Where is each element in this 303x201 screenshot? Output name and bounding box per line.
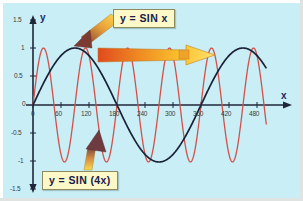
figure-border-bottom [0, 198, 303, 201]
x-tick-label: 360 [193, 110, 203, 117]
x-axis-label: x [281, 90, 287, 101]
y-tick-label: -1.5 [10, 185, 20, 192]
callout-sin-4x: y = SIN (4x) [42, 171, 118, 190]
callout-sin-x: y = SIN x [113, 9, 175, 28]
graph-figure: 1.5 1 0.5 0 -0.5 -1 -1.5 0 60 120 180 24… [0, 0, 303, 201]
y-tick-label: -0.5 [11, 129, 21, 136]
x-tick-label: 120 [81, 110, 91, 117]
figure-border-right [300, 0, 303, 201]
arrow-horizontal [98, 45, 215, 65]
x-tick-label: 420 [221, 110, 231, 117]
x-tick-label: 300 [165, 110, 175, 117]
x-tick-label: 180 [109, 110, 119, 117]
figure-border-top [0, 0, 303, 3]
y-axis-label: y [40, 12, 46, 23]
figure-border-left [0, 0, 3, 201]
y-tick-label: -1 [18, 157, 23, 164]
x-tick-label: 60 [55, 110, 62, 117]
y-tick-label: 0 [22, 100, 25, 107]
x-tick-label: 240 [137, 110, 147, 117]
y-tick-label: 1.5 [13, 16, 21, 23]
x-tick-label: 480 [249, 110, 259, 117]
arrow-to-sin4x-curve [84, 130, 106, 170]
x-tick-label: 0 [31, 110, 34, 117]
y-tick-label: 1 [21, 44, 24, 51]
y-tick-label: 0.5 [14, 72, 22, 79]
